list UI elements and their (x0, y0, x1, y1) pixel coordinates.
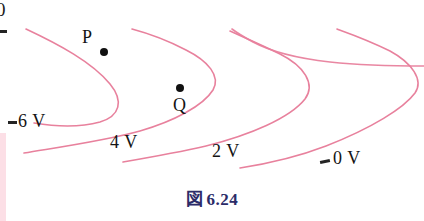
corner-partial-glyph: 0 (0, 0, 6, 19)
equipotential-curve-outer (232, 29, 424, 66)
equipotential-curve-0v (240, 29, 418, 168)
equipotential-label-6v: 6 V (18, 112, 46, 130)
figure-6-24: 0 6 V 4 V 2 V 0 V P Q 図6.24 (0, 0, 424, 221)
caption-number: 6.24 (206, 190, 238, 209)
point-marker-q (176, 84, 184, 92)
point-label-q: Q (173, 96, 186, 114)
point-marker-p (100, 48, 108, 56)
leader-dash-6v (8, 121, 17, 124)
figure-caption: 図6.24 (0, 185, 424, 210)
equipotential-label-0v: 0 V (333, 149, 361, 167)
corner-dash-mark (0, 30, 7, 33)
point-label-p: P (82, 28, 92, 46)
equipotential-label-4v: 4 V (110, 133, 138, 151)
equipotential-label-2v: 2 V (212, 142, 240, 160)
caption-prefix: 図 (186, 190, 204, 209)
